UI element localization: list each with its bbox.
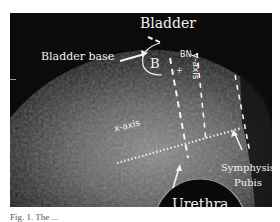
bladder-label: Bladder <box>140 16 196 30</box>
pubis-label: Pubis <box>234 178 262 188</box>
bladder-base-label: Bladder base <box>41 51 114 62</box>
bn-label: BN <box>180 51 191 59</box>
y-axis-label: y-axis <box>191 53 200 79</box>
symphysis-label: Symphysis <box>221 163 272 173</box>
svg-text:+: + <box>176 66 183 75</box>
figure-caption: Fig. 1. The ... <box>10 212 272 222</box>
urethra-label: Urethra <box>172 197 228 207</box>
ultrasound-image: + <box>10 13 272 207</box>
b-angle-label: B <box>150 57 160 70</box>
scale-tick <box>10 79 16 80</box>
ultrasound-figure: + Bladder Bladder base BN B y-axis x-axi… <box>10 13 272 207</box>
